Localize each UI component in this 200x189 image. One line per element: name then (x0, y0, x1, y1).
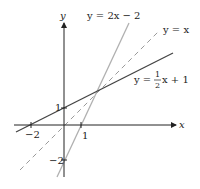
line-graph: y x −2 1 1 −2 y = 2x − 2 y = x y = 1 2 x… (0, 0, 200, 189)
line-y-equals-x (20, 30, 160, 170)
label-shallow-equation: y = 1 2 x + 1 (133, 70, 189, 90)
tick-label-y-1: 1 (55, 102, 61, 113)
label-identity-equation: y = x (162, 24, 189, 35)
tick-label-y-neg2: −2 (49, 155, 64, 166)
shallow-eq-denominator: 2 (155, 81, 160, 90)
tick-label-x-1: 1 (82, 130, 88, 141)
shallow-eq-prefix: y = (133, 74, 151, 85)
label-steep-equation: y = 2x − 2 (86, 10, 141, 21)
line-y-equals-half-x-plus-1 (16, 53, 173, 132)
x-axis-label: x (179, 119, 185, 130)
shallow-eq-numerator: 1 (155, 70, 160, 79)
tick-label-x-neg2: −2 (25, 129, 40, 140)
line-y-equals-2x-minus-2 (57, 23, 129, 177)
shallow-eq-suffix: x + 1 (162, 74, 189, 85)
y-axis-label: y (59, 10, 66, 21)
